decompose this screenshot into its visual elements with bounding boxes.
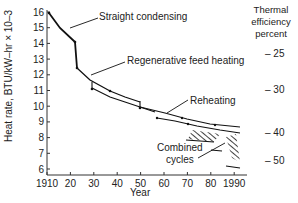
series-lines [48, 12, 240, 133]
straight-condensing-line [49, 13, 77, 68]
x-tick-label: 1910 [36, 178, 59, 189]
y-tick-label: 9 [38, 116, 44, 127]
label-reheating: Reheating [190, 95, 236, 106]
x-tick-label: 20 [65, 178, 77, 189]
x-tick-label: 30 [88, 178, 100, 189]
x-tick-label: 70 [182, 178, 194, 189]
y-tick-label: 8 [38, 132, 44, 143]
efficiency-tick-label: – 40 [265, 127, 285, 138]
y-tick-label: 11 [34, 85, 45, 96]
right-title-2: efficiency [251, 16, 291, 27]
y-tick-label: 14 [33, 38, 45, 49]
y-tick-label: 15 [33, 22, 45, 33]
x-tick-label: 1990 [223, 178, 246, 189]
label-combined: Combined [157, 142, 203, 153]
label-straight-condensing: Straight condensing [99, 11, 187, 22]
y-tick-label: 13 [33, 54, 45, 65]
y-tick-label: 7 [38, 148, 44, 159]
x-tick-label: 40 [112, 178, 124, 189]
y-tick-label: 12 [33, 69, 45, 80]
y-tick-label: 10 [33, 101, 45, 112]
regenerative-upper-line [77, 68, 140, 102]
heat-rate-chart: 678910111213141516 191020304050607080199… [0, 0, 298, 203]
x-tick-label: 80 [205, 178, 217, 189]
x-axis-title: Year [130, 187, 151, 198]
efficiency-ticks: – 25– 30– 40– 50 [265, 48, 285, 166]
efficiency-tick-label: – 50 [265, 155, 285, 166]
label-cycles: cycles [166, 154, 194, 165]
y-tick-label: 6 [38, 164, 44, 175]
efficiency-tick-label: – 25 [265, 48, 285, 59]
label-regenerative: Regenerative feed heating [127, 55, 244, 66]
efficiency-tick-label: – 30 [265, 84, 285, 95]
y-axis-title: Heat rate, BTU/kW–hr × 10–3 [3, 10, 14, 142]
y-tick-label: 16 [33, 7, 45, 18]
x-tick-label: 60 [158, 178, 170, 189]
right-title-1: Thermal [254, 4, 289, 15]
right-title-3: percent [255, 28, 287, 39]
